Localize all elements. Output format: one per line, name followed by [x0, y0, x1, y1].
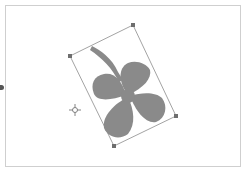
- resize-handle-bottom-left[interactable]: [112, 144, 116, 148]
- resize-handle-top-left[interactable]: [68, 54, 72, 58]
- clover-petal-bottom: [104, 97, 133, 137]
- pivot-crosshair-icon[interactable]: [69, 104, 81, 116]
- resize-handle-top-right[interactable]: [131, 23, 135, 27]
- resize-handle-bottom-right[interactable]: [174, 114, 178, 118]
- clover-petal-right: [130, 93, 165, 122]
- artboard: [0, 0, 243, 170]
- clover-shape[interactable]: [90, 46, 165, 137]
- clover-center: [121, 89, 135, 103]
